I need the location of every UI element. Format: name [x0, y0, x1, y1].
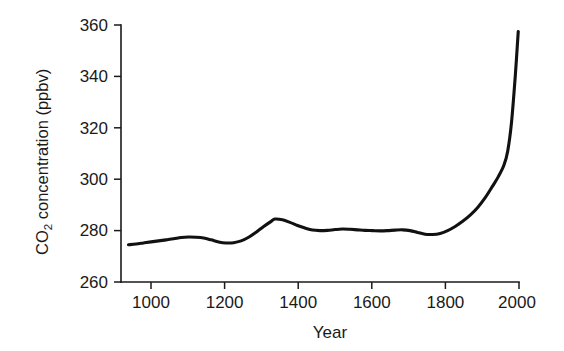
y-tick-marks	[114, 25, 121, 282]
x-tick-label-2000: 2000	[498, 293, 536, 312]
y-tick-label-340: 340	[80, 67, 108, 86]
co2-series-line	[129, 31, 519, 244]
chart-canvas: CO2 concentration (ppbv) 360 340 320 300…	[0, 0, 564, 351]
x-tick-marks	[151, 282, 519, 289]
x-axis-title: Year	[313, 323, 348, 342]
x-tick-label-1400: 1400	[279, 293, 317, 312]
y-axis-title-suffix: concentration (ppbv)	[33, 69, 51, 224]
y-tick-labels: 360 340 320 300 280 260	[80, 16, 108, 292]
svg-text:CO2 concentration (ppbv): CO2 concentration (ppbv)	[33, 69, 54, 255]
x-tick-label-1000: 1000	[132, 293, 170, 312]
y-axis-title: CO2 concentration (ppbv)	[33, 69, 54, 255]
y-tick-label-320: 320	[80, 119, 108, 138]
x-tick-label-1200: 1200	[206, 293, 244, 312]
y-tick-label-260: 260	[80, 273, 108, 292]
y-tick-label-360: 360	[80, 16, 108, 35]
y-tick-label-280: 280	[80, 221, 108, 240]
co2-concentration-chart: CO2 concentration (ppbv) 360 340 320 300…	[0, 0, 564, 351]
x-tick-label-1800: 1800	[426, 293, 464, 312]
x-tick-label-1600: 1600	[353, 293, 391, 312]
x-tick-labels: 1000 1200 1400 1600 1800 2000	[132, 293, 536, 312]
y-axis-title-prefix: CO	[33, 230, 51, 255]
y-tick-label-300: 300	[80, 170, 108, 189]
